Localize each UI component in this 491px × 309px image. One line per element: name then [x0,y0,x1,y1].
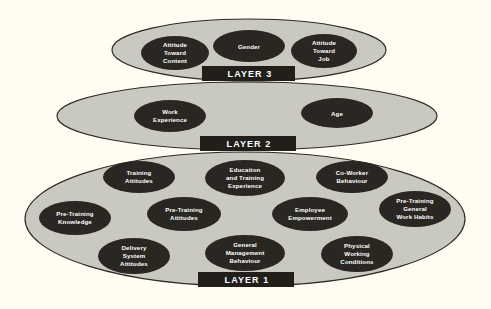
node-label: Content [163,57,187,64]
node-label: Physical [344,242,370,249]
diagram-canvas: Training Attitudes Education and Trainin… [0,0,491,309]
node-label: Attitudes [125,177,153,184]
node-label: Attitudes [120,260,148,267]
node-label: Education [230,166,261,173]
node-attitude-toward-content[interactable]: Attitude Toward Content [141,36,209,70]
node-label: General [403,205,427,212]
node-label: Toward [313,47,335,54]
node-label: Work [162,108,178,115]
layer-3-label-box[interactable]: LAYER 3 [202,66,295,81]
node-general-management-behaviour[interactable]: General Management Behaviour [205,235,285,271]
node-physical-working-conditions[interactable]: Physical Working Conditions [321,236,393,272]
node-label: and Training [226,174,264,181]
node-label: Behaviour [229,257,261,264]
node-label: Attitude [163,41,188,48]
node-label: General [233,241,257,248]
node-co-worker-behaviour[interactable]: Co-Worker Behaviour [316,161,388,193]
layer-label-text: LAYER 1 [225,275,270,285]
node-work-experience[interactable]: Work Experience [134,100,206,132]
node-label: Knowledge [58,218,92,225]
node-label: Job [318,55,329,62]
node-education-and-training-experience[interactable]: Education and Training Experience [205,160,285,196]
node-label: Toward [164,49,186,56]
node-label: Pre-Training [396,197,433,204]
node-label: Gender [238,43,261,50]
node-label: Attitude [312,39,337,46]
node-label: Co-Worker [336,169,369,176]
layer-1-label-box[interactable]: LAYER 1 [198,272,294,287]
node-pre-training-knowledge[interactable]: Pre-Training Knowledge [39,201,111,235]
node-employee-empowerment[interactable]: Employee Empowerment [272,197,348,231]
node-attitude-toward-job[interactable]: Attitude Toward Job [291,34,357,68]
node-label: Empowerment [288,214,332,221]
node-label: Working [344,250,369,257]
node-label: Employee [295,206,325,213]
node-pre-training-attitudes[interactable]: Pre-Training Attitudes [147,197,221,231]
layer-3-group[interactable]: Attitude Toward Content Gender Attitude … [112,19,386,81]
node-gender[interactable]: Gender [213,30,285,62]
node-label: Training [127,169,152,176]
layer-2-label-box[interactable]: LAYER 2 [200,136,296,151]
node-age[interactable]: Age [301,98,373,128]
node-label: Delivery [122,244,147,251]
node-label: System [123,252,146,259]
node-label: Attitudes [170,214,198,221]
node-label: Work Habits [396,213,434,220]
node-delivery-system-attitudes[interactable]: Delivery System Attitudes [98,238,170,274]
node-pre-training-general-work-habits[interactable]: Pre-Training General Work Habits [379,191,451,227]
node-label: Behaviour [336,177,368,184]
node-training-attitudes[interactable]: Training Attitudes [103,161,175,193]
layer-1-group[interactable]: Training Attitudes Education and Trainin… [25,152,465,287]
node-label: Pre-Training [165,206,202,213]
node-label: Pre-Training [56,210,93,217]
layer-label-text: LAYER 3 [228,69,273,79]
node-label: Management [226,249,265,256]
node-label: Experience [228,182,262,189]
layer-2-group[interactable]: Work Experience Age LAYER 2 [57,82,437,151]
layer-label-text: LAYER 2 [227,139,272,149]
node-label: Conditions [340,258,374,265]
node-label: Experience [153,116,187,123]
node-label: Age [331,110,343,117]
